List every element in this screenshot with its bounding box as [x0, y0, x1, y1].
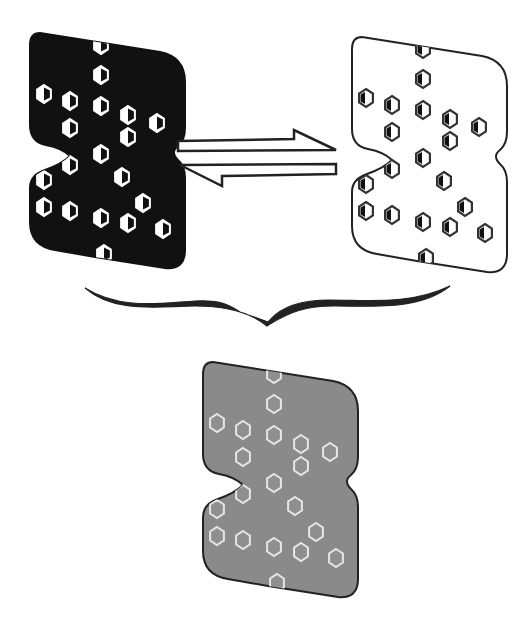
diagram-canvas: Equilibrium between dark and light state… — [0, 0, 524, 630]
hexagon-icon — [236, 485, 250, 503]
equilibrium-arrows — [178, 130, 336, 186]
hexagon-icon — [329, 549, 343, 567]
hexagon-icon — [267, 426, 281, 444]
hexagon-icon — [210, 527, 224, 545]
hexagon-icon — [267, 474, 281, 492]
hexagon-icon — [323, 443, 337, 461]
dark-state-panel — [30, 33, 185, 268]
light-state-panel — [352, 37, 507, 272]
hexagon-icon — [288, 497, 302, 515]
hexagon-icon — [294, 435, 308, 453]
hexagon-icon — [267, 365, 281, 383]
hexagon-icon — [236, 531, 250, 549]
hexagon-icon — [267, 395, 281, 413]
hexagon-icon — [236, 448, 250, 466]
hexagon-icon — [294, 543, 308, 561]
hexagon-icon — [270, 574, 284, 592]
averaged-state-panel — [203, 362, 358, 597]
hexagon-icon — [267, 538, 281, 556]
hexagon-icon — [236, 421, 250, 439]
reverse-arrow-icon — [180, 164, 336, 186]
forward-arrow-icon — [178, 130, 336, 151]
hexagon-icon — [309, 523, 323, 541]
hexagon-icon — [294, 457, 308, 475]
hexagon-icon — [210, 500, 224, 518]
average-brace-icon — [85, 286, 450, 326]
hexagon-icon — [210, 414, 224, 432]
